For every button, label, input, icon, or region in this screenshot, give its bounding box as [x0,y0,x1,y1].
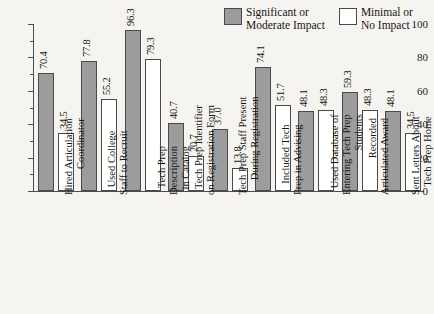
x-axis-label-line: Hired Articulation [63,118,75,195]
x-axis-label-line: Included Tech [280,124,292,195]
x-axis-label-line: on Registration Form [205,105,217,195]
x-axis-label-line: Prep in Advising [292,124,304,195]
x-axis-label-line: Description [168,146,180,195]
bar-value-label: 40.7 [168,101,179,119]
x-axis-category-label: Tech Prep Identifieron Registration Form [193,105,217,195]
x-axis-labels: Hired ArticulationCoordinatorUsed Colleg… [33,192,424,314]
bar-value-label: 55.2 [101,77,112,95]
x-axis-label-line: Tech Prep [156,146,168,195]
bar-value-label: 48.1 [385,89,396,107]
x-axis-category-label: Used CollegeStaff to Recruit [106,130,130,195]
x-axis-label-line: Used College [106,130,118,195]
bar-value-label: 70.4 [38,52,49,70]
bar-value-label: 48.3 [362,89,373,107]
x-axis-label-line: During Registration [249,96,261,195]
x-axis-label-line: Articulated Award [379,118,391,195]
bar-value-label: 51.7 [275,83,286,101]
x-axis-label-line: in Catalog [180,146,192,195]
bar-value-label: 48.1 [298,89,309,107]
x-axis-category-label: Used Database ofEntering Tech PrepStuden… [329,114,365,195]
x-axis-label-line: Staff to Recruit [118,130,130,195]
x-axis-category-label: Sent Letters AboutTech Prep Home [410,116,434,195]
bar-value-label: 48.3 [318,89,329,107]
x-axis-label-line: Tech Prep Home [422,116,434,195]
bar-value-label: 77.8 [81,40,92,58]
bar [38,73,54,191]
x-axis-label-line: Tech Prep Identifier [193,105,205,195]
bar-value-label: 59.3 [342,70,353,88]
x-axis-label-line: Sent Letters About [410,116,422,195]
x-axis-category-label: Tech Prep Staff PresentDuring Registrati… [237,96,261,195]
bar-value-label: 74.1 [255,46,266,64]
x-axis-label-line: Tech Prep Staff Present [237,96,249,195]
x-axis-category-label: RecordedArticulated Award [367,118,391,195]
bar-value-label: 96.3 [125,9,136,27]
x-axis-label-line: Recorded [367,118,379,195]
x-axis-category-label: Included TechPrep in Advising [280,124,304,195]
x-axis-category-label: Hired ArticulationCoordinator [63,118,87,195]
x-axis-category-label: Tech PrepDescriptionin Catalog [156,146,192,195]
x-axis-label-line: Students [353,114,365,195]
x-axis-label-line: Entering Tech Prep [341,114,353,195]
x-axis-label-line: Used Database of [329,114,341,195]
x-axis-label-line: Coordinator [75,118,87,195]
bar-value-label: 79.3 [145,37,156,55]
bars-layer: 70.434.577.855.296.379.340.720.737.013.8… [33,24,424,191]
